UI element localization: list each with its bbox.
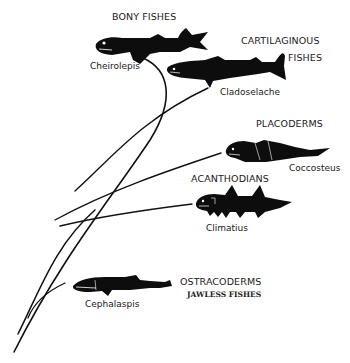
label-cheirolepis: Cheirolepis <box>90 61 140 71</box>
label-cartilaginous-line1: CARTILAGINOUS <box>241 35 320 46</box>
label-acanthodians: ACANTHODIANS <box>191 173 269 184</box>
fish-climatius <box>196 185 292 218</box>
fish-cladoselache <box>167 53 286 88</box>
label-ostracoderms: OSTRACODERMS <box>180 276 261 287</box>
fish-evolution-diagram: BONY FISHES Cheirolepis CARTILAGINOUS FI… <box>0 0 350 363</box>
label-bony-fishes: BONY FISHES <box>112 11 176 22</box>
fish-coccosteus <box>226 140 330 162</box>
label-coccosteus: Coccosteus <box>289 163 340 173</box>
label-cladoselache: Cladoselache <box>220 87 280 97</box>
label-cephalaspis: Cephalaspis <box>85 299 139 309</box>
label-cartilaginous-line2: FISHES <box>288 52 322 63</box>
label-climatius: Climatius <box>206 223 248 233</box>
label-jawless-fishes: JAWLESS FISHES <box>187 290 261 299</box>
fish-cephalaspis <box>73 275 172 296</box>
label-placoderms: PLACODERMS <box>256 118 323 129</box>
fish-cheirolepis <box>96 28 208 64</box>
branch-cartilaginous <box>75 88 208 191</box>
